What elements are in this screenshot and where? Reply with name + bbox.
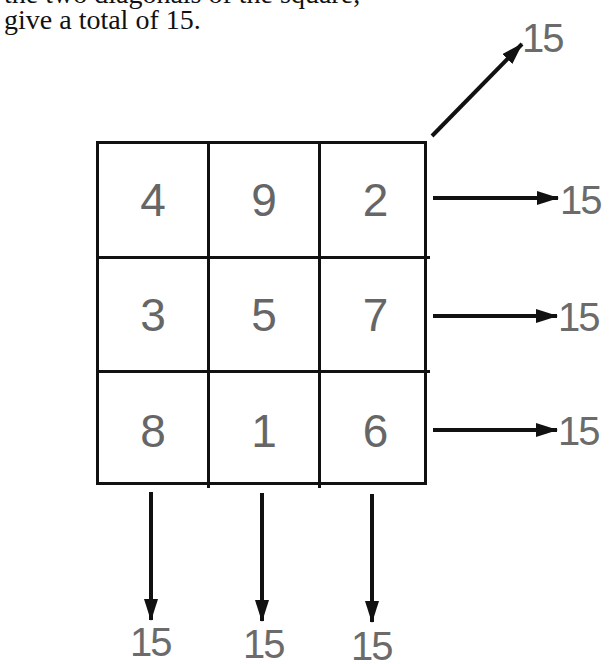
column-1-sum-label: 15 — [130, 622, 171, 662]
diagonal-arrow — [432, 44, 522, 136]
diagonal-sum-label: 15 — [522, 18, 563, 58]
row-3-sum-label: 15 — [558, 411, 599, 451]
column-2-sum-label: 15 — [243, 624, 284, 664]
row-1-sum-label: 15 — [560, 180, 601, 220]
column-3-sum-label: 15 — [351, 626, 392, 664]
row-2-sum-label: 15 — [558, 297, 599, 337]
